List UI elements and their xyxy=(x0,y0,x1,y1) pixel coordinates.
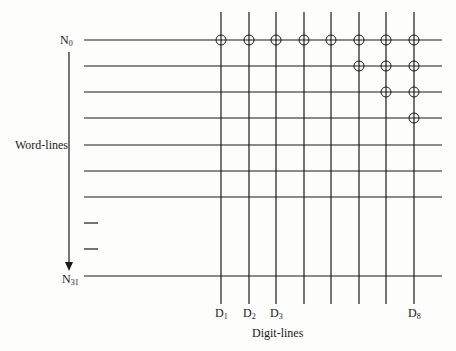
arrow-down-icon xyxy=(65,262,73,271)
word-line-label-n0: N0 xyxy=(60,34,73,48)
digit-line-label-d2: D2 xyxy=(243,307,256,321)
matrix-grid xyxy=(0,0,456,351)
n31-base: N xyxy=(62,272,71,286)
d3-base: D xyxy=(270,306,279,320)
d2-sub: 2 xyxy=(252,312,256,321)
d8-sub: 8 xyxy=(417,312,421,321)
d2-base: D xyxy=(243,306,252,320)
n0-sub: 0 xyxy=(69,39,73,48)
memory-matrix-diagram: N0 Word-lines N31 D1 D2 D3 D8 Digit-line… xyxy=(0,0,456,351)
d3-sub: 3 xyxy=(279,312,283,321)
digit-line-label-d8: D8 xyxy=(408,307,421,321)
d1-sub: 1 xyxy=(224,312,228,321)
digit-lines-axis-label: Digit-lines xyxy=(252,327,303,339)
digit-line-label-d3: D3 xyxy=(270,307,283,321)
word-lines-axis-label: Word-lines xyxy=(15,139,68,151)
d8-base: D xyxy=(408,306,417,320)
d1-base: D xyxy=(215,306,224,320)
word-line-label-n31: N31 xyxy=(62,273,79,287)
digit-line-label-d1: D1 xyxy=(215,307,228,321)
n0-base: N xyxy=(60,33,69,47)
n31-sub: 31 xyxy=(71,278,79,287)
